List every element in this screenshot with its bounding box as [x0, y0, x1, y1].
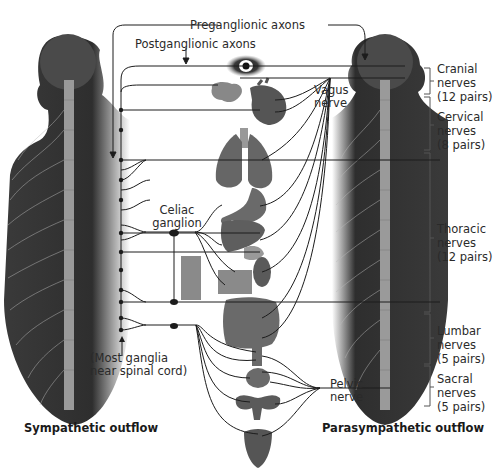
lumbar-nerves-label: Lumbar nerves (5 pairs) [437, 324, 485, 366]
parasympathetic-outflow-title: Parasympathetic outflow [322, 421, 484, 435]
left-lung-organ [216, 134, 242, 188]
sacral-nerves-label: Sacral nerves (5 pairs) [437, 372, 485, 414]
preganglionic-axons-label: Preganglionic axons [190, 19, 305, 32]
rectum-organ [252, 344, 262, 366]
intestines-organ [223, 297, 279, 348]
stomach-organ [221, 188, 266, 224]
thoracic-nerves-label: Thoracic nerves (12 pairs) [437, 222, 493, 264]
vagus-nerve-label: Vagus nerve [314, 84, 349, 110]
postganglionic-axons-label: Postganglionic axons [135, 38, 256, 51]
pelvic-nerve-label: Pelvic nerve [330, 378, 363, 404]
heart-organ [250, 85, 286, 125]
cervical-nerves-label: Cervical nerves (8 pairs) [437, 110, 485, 152]
most-ganglia-label: (Most ganglia near spinal cord) [90, 352, 187, 378]
autonomic-nervous-system-diagram: Preganglionic axons Postganglionic axons… [0, 0, 494, 474]
cranial-nerves-label: Cranial nerves (12 pairs) [437, 62, 493, 104]
sweat-gland-tissue-image [218, 270, 252, 294]
liver-organ [221, 220, 265, 252]
celiac-tissue-image [181, 256, 201, 300]
right-body-figure [332, 34, 448, 425]
celiac-ganglion-label: Celiac ganglion [147, 204, 207, 230]
organs [181, 55, 286, 468]
right-lung-organ [248, 134, 272, 188]
reproductive-organ [236, 395, 281, 420]
sympathetic-outflow-title: Sympathetic outflow [24, 421, 158, 435]
